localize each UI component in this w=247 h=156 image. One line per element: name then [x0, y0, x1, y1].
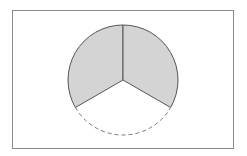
shaded-sector-left [68, 25, 123, 108]
dashed-arc-bottom [75, 108, 170, 135]
sector-diagram [0, 0, 247, 156]
shaded-sector-right [123, 25, 178, 108]
